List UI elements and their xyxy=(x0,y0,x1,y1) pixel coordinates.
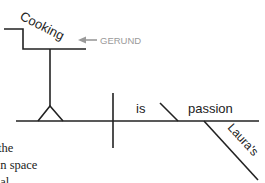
body-text-line-3: ual xyxy=(0,175,9,183)
subject-word: Cooking xyxy=(18,8,67,43)
predicate-noun-word: passion xyxy=(188,101,233,116)
verb-word: is xyxy=(136,101,146,116)
sentence-diagram: Cooking GERUND is passion Laura's the un… xyxy=(0,0,265,183)
complement-slash xyxy=(160,103,178,121)
body-text-line-1: the xyxy=(0,141,13,155)
diagram-canvas: Cooking GERUND is passion Laura's xyxy=(0,0,265,183)
body-text-line-2: un space xyxy=(0,158,37,172)
arrow-left-icon xyxy=(78,37,97,44)
modifier-word: Laura's xyxy=(225,121,262,159)
fork-line xyxy=(38,106,63,121)
gerund-label: GERUND xyxy=(100,35,141,46)
